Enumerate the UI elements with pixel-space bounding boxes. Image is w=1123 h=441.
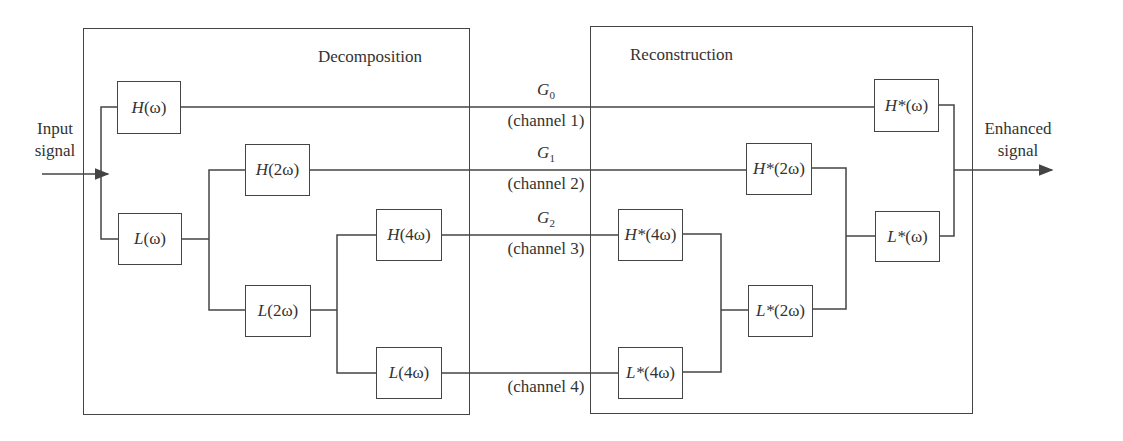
reconstruction-title: Reconstruction (630, 45, 733, 65)
decomposition-title: Decomposition (318, 47, 422, 67)
filter-Hstar-2omega: H*(2ω) (746, 143, 812, 195)
gain-G2: G2 (502, 208, 590, 229)
filter-Lstar-4omega: L*(4ω) (618, 347, 683, 399)
gain-G0: G0 (502, 80, 590, 101)
channel-1-label: (channel 1) (500, 111, 592, 131)
channel-3-label: (channel 3) (500, 239, 592, 259)
channel-4-label: (channel 4) (500, 377, 592, 397)
filter-L-2omega: L(2ω) (245, 285, 311, 337)
input-signal-label: Input signal (30, 118, 80, 162)
filter-H-4omega: H(4ω) (376, 209, 442, 261)
channel-2-label: (channel 2) (500, 174, 592, 194)
filter-Hstar-omega: H*(ω) (874, 79, 939, 132)
filter-H-omega: H(ω) (117, 81, 181, 134)
enhanced-signal-label: Enhanced signal (978, 118, 1058, 162)
filter-Hstar-4omega: H*(4ω) (618, 209, 683, 261)
filter-Lstar-2omega: L*(2ω) (748, 285, 813, 337)
gain-G1: G1 (502, 143, 590, 164)
filter-Lstar-omega: L*(ω) (875, 211, 940, 262)
filter-L-4omega: L(4ω) (376, 347, 442, 399)
filter-L-omega: L(ω) (118, 213, 182, 265)
filter-H-2omega: H(2ω) (245, 144, 310, 196)
